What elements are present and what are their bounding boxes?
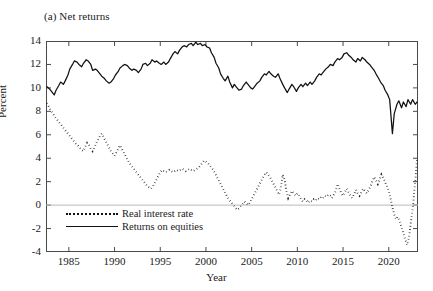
y-tick-label: 14 <box>15 35 41 46</box>
x-tick-label: 1985 <box>47 256 91 267</box>
y-tick-label: 6 <box>15 129 41 140</box>
legend-item-real-interest-rate: Real interest rate <box>66 208 203 221</box>
x-tick-label: 2020 <box>367 256 411 267</box>
y-axis-label: Percent <box>0 85 8 118</box>
y-tick-label: -4 <box>15 246 41 257</box>
legend-label-real-interest-rate: Real interest rate <box>122 208 193 221</box>
x-tick-label: 2005 <box>230 256 274 267</box>
y-tick-label: -2 <box>15 223 41 234</box>
y-tick-label: 2 <box>15 176 41 187</box>
x-tick-label: 2015 <box>321 256 365 267</box>
legend-swatch-dotted-icon <box>66 209 118 219</box>
figure-panel-a: (a) Net returns Percent 14121086420-2-4 … <box>0 0 433 291</box>
y-tick-label: 0 <box>15 199 41 210</box>
y-tick-label: 12 <box>15 58 41 69</box>
y-tick-label: 8 <box>15 105 41 116</box>
legend-label-returns-on-equities: Returns on equities <box>122 221 203 234</box>
panel-title: (a) Net returns <box>44 10 110 22</box>
y-tick-label: 10 <box>15 82 41 93</box>
series-returns-on-equities <box>47 42 417 133</box>
x-tick-label: 1995 <box>138 256 182 267</box>
x-axis-label: Year <box>0 271 433 283</box>
y-tick-label: 4 <box>15 152 41 163</box>
x-tick-label: 1990 <box>93 256 137 267</box>
x-tick-label: 2000 <box>184 256 228 267</box>
x-tick-label: 2010 <box>275 256 319 267</box>
legend-swatch-solid-icon <box>66 222 118 232</box>
legend: Real interest rate Returns on equities <box>66 208 203 233</box>
legend-item-returns-on-equities: Returns on equities <box>66 221 203 234</box>
